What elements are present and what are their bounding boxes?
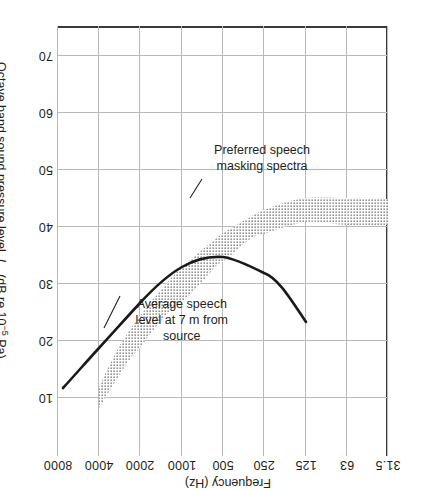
xtick-label-2000: 2000 <box>126 458 155 472</box>
ytick-label-30: 30 <box>39 277 53 291</box>
xtick-label-250: 250 <box>253 458 274 472</box>
y-axis-title-exponent: −5 <box>0 326 10 336</box>
xtick-label-31_5: 31.5 <box>375 458 400 472</box>
annotation-masking-spectra: Preferred speech masking spectra <box>214 142 310 174</box>
xtick-label-8000: 8000 <box>44 458 73 472</box>
xtick-label-500: 500 <box>212 458 233 472</box>
xtick-label-125: 125 <box>295 458 316 472</box>
ytick-label-20: 20 <box>39 334 53 348</box>
annotation-average-speech: Average speech level at 7 m from source <box>136 296 228 344</box>
xtick-label-4000: 4000 <box>85 458 114 472</box>
ytick-label-60: 60 <box>39 106 53 120</box>
ytick-label-40: 40 <box>39 220 53 234</box>
leader-line-masking-spectra <box>190 179 202 198</box>
y-axis-title: Octave band sound pressure level, Lp (dB… <box>0 62 10 359</box>
xtick-label-1000: 1000 <box>168 458 197 472</box>
ytick-label-50: 50 <box>39 163 53 177</box>
annotation-average-speech-line1: Average speech <box>136 296 228 312</box>
xtick-label-63: 63 <box>340 458 354 472</box>
chart-data-overlay <box>58 26 388 456</box>
ytick-label-10: 10 <box>39 391 53 405</box>
y-axis-title-close: Pa) <box>0 336 8 359</box>
annotation-masking-spectra-line1: Preferred speech <box>214 142 310 158</box>
annotation-average-speech-line3: source <box>136 328 228 344</box>
annotation-average-speech-line2: level at 7 m from <box>136 312 228 328</box>
y-axis-title-open: (dB re 10 <box>0 271 8 326</box>
y-axis-title-pre: Octave band sound pressure level, <box>0 62 8 259</box>
ytick-label-70: 70 <box>39 49 53 63</box>
plot-area: Average speech level at 7 m from source … <box>58 26 388 456</box>
y-axis-title-symbol: L <box>0 259 8 266</box>
leader-line-average-speech <box>104 296 120 328</box>
x-axis-title: Frequency (Hz) <box>185 476 271 490</box>
annotation-masking-spectra-line2: masking spectra <box>214 158 310 174</box>
